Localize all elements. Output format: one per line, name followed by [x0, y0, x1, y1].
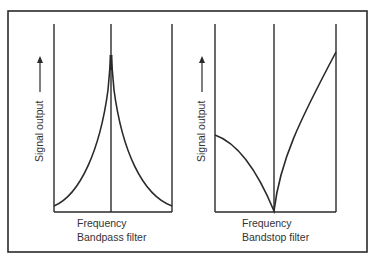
bandstop-caption: Bandstop filter — [242, 231, 309, 244]
bandstop-ylabel: Signal output — [195, 101, 207, 162]
bandstop-panel — [199, 24, 336, 212]
bandpass-panel — [37, 24, 172, 212]
bandpass-y-arrow-head — [37, 56, 43, 63]
bandstop-y-arrow-head — [199, 56, 205, 63]
bandstop-curve — [215, 52, 336, 211]
outer-border — [8, 11, 367, 252]
bandpass-ylabel: Signal output — [33, 101, 45, 162]
bandpass-xlabel: Frequency — [77, 217, 127, 230]
bandpass-curve — [54, 55, 172, 206]
diagram-svg — [0, 0, 374, 261]
bandstop-xlabel: Frequency — [242, 217, 292, 230]
bandpass-caption: Bandpass filter — [77, 231, 146, 244]
